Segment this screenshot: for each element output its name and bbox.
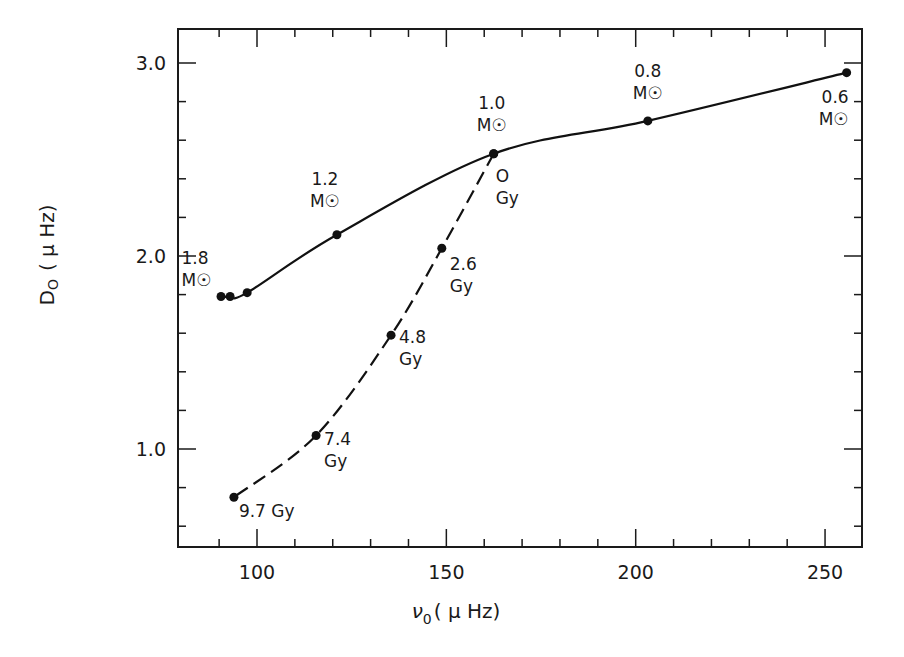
y-axis-title: DO( μ Hz) xyxy=(35,204,61,305)
point-label: 2.6Gy xyxy=(450,254,477,296)
y-tick-label: 2.0 xyxy=(136,245,166,267)
data-point xyxy=(243,288,252,297)
data-point xyxy=(217,292,226,301)
data-point xyxy=(387,331,396,340)
x-axis-title: ν0( μ Hz) xyxy=(412,599,501,627)
data-point xyxy=(226,292,235,301)
plot-frame xyxy=(178,29,862,547)
point-label: 9.7 Gy xyxy=(239,501,295,521)
point-label: 1.8M☉ xyxy=(182,248,212,290)
chart: 1001502002501.02.03.0 1.8M☉1.2M☉1.0M☉OGy… xyxy=(0,0,904,657)
point-annotations: 1.8M☉1.2M☉1.0M☉OGy0.8M☉0.6M☉2.6Gy4.8Gy7.… xyxy=(182,61,849,521)
data-point xyxy=(842,68,851,77)
point-label: 1.2M☉ xyxy=(310,169,340,211)
x-tick-label: 100 xyxy=(239,561,275,583)
data-point xyxy=(312,431,321,440)
data-point xyxy=(229,493,238,502)
data-point xyxy=(437,244,446,253)
age-sequence-line xyxy=(234,154,494,498)
data-point xyxy=(332,230,341,239)
x-tick-label: 150 xyxy=(428,561,464,583)
y-tick-label: 1.0 xyxy=(136,438,166,460)
point-label: 7.4Gy xyxy=(324,429,351,471)
y-tick-label: 3.0 xyxy=(136,52,166,74)
plot-area-border xyxy=(178,29,862,547)
axis-ticks xyxy=(178,29,862,547)
point-label: 0.8M☉ xyxy=(633,61,663,103)
point-label: OGy xyxy=(496,166,519,208)
x-tick-label: 250 xyxy=(807,561,843,583)
data-points xyxy=(217,68,852,502)
data-point xyxy=(643,116,652,125)
x-tick-label: 200 xyxy=(618,561,654,583)
point-label: 1.0M☉ xyxy=(477,93,507,135)
data-point xyxy=(489,149,498,158)
point-label: 4.8Gy xyxy=(399,327,426,369)
point-label: 0.6M☉ xyxy=(819,87,849,129)
